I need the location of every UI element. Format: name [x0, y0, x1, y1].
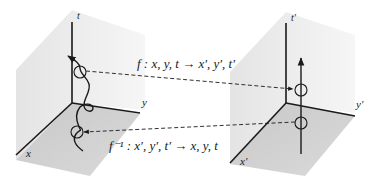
- right-y-label: y′: [355, 98, 364, 110]
- left-x-label: x: [25, 147, 31, 159]
- left-t-label: t: [77, 10, 80, 21]
- right-spacetime: t′ y′ x′: [230, 12, 364, 176]
- right-t-label: t′: [291, 12, 297, 23]
- coordinate-transform-diagram: t y x t′ y′ x′ f : x, y, t → x′, y′, t′ …: [0, 0, 377, 181]
- inverse-map-label: f⁻¹ : x′, y′, t′ → x, y, t: [109, 138, 218, 153]
- forward-map-label: f : x, y, t → x′, y′, t′: [137, 56, 235, 71]
- right-x-label: x′: [239, 155, 248, 167]
- left-y-label: y: [141, 96, 147, 108]
